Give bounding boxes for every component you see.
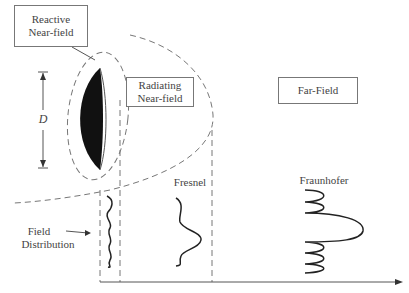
- reactive-leader-line: [72, 47, 95, 60]
- near-field-distribution-curve: [107, 196, 112, 267]
- reactive-near-field-box: Reactive Near-field: [14, 5, 88, 47]
- field-distribution-label: Field Distribution: [18, 225, 78, 251]
- radiating-label-line1: Radiating: [138, 79, 183, 92]
- fresnel-distribution-curve: [176, 198, 201, 266]
- axis-arrowhead-icon: [395, 279, 403, 285]
- fraunhofer-distribution-curve: [305, 190, 363, 273]
- dimension-arrowhead-top: [40, 73, 46, 80]
- dish-icon: [80, 68, 103, 170]
- dimension-arrowhead-bottom: [40, 160, 46, 167]
- radiating-label-line2: Near-field: [138, 92, 183, 105]
- radiating-near-field-box: Radiating Near-field: [126, 77, 194, 107]
- dimension-label: D: [36, 113, 50, 126]
- reactive-label-line1: Reactive: [29, 13, 74, 26]
- fresnel-label: Fresnel: [168, 176, 212, 189]
- far-field-label: Far-Field: [298, 84, 339, 97]
- fraunhofer-label: Fraunhofer: [292, 174, 356, 187]
- reactive-label-line2: Near-field: [29, 26, 74, 39]
- far-field-box: Far-Field: [278, 77, 358, 104]
